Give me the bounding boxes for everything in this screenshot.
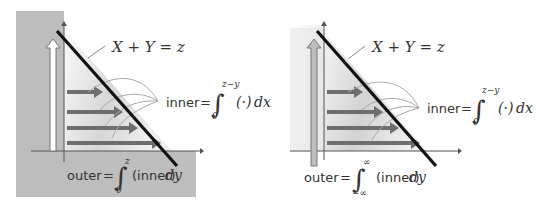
panel-right: X + Y = z inner = ∫ 0 z−y (·) dx outer =… [272,0,543,206]
line-label: X + Y = z [111,38,185,56]
outer-lower-limit: −∞ [352,188,367,198]
outer-eq: = [340,170,351,185]
outer-upper-limit: z [124,156,130,166]
outer-lower-limit: 0 [116,185,122,195]
inner-upper-limit: z−y [481,85,500,95]
outer-upper-limit: ∞ [363,157,371,167]
inner-lhs: inner [427,101,461,116]
line-label-leader [348,46,365,59]
outer-lhs: outer [67,168,102,183]
panel-left: X + Y = z inner = ∫ 0 z−y (·) dx outer =… [0,0,272,206]
inner-lower-limit: 0 [212,111,218,121]
inner-lhs: inner [166,95,200,110]
inner-lower-limit: 0 [473,117,479,127]
inner-differential: dx [254,94,271,110]
line-label-leader [88,46,105,58]
diagram-left: X + Y = z inner = ∫ 0 z−y (·) dx outer =… [0,0,272,206]
outer-formula: outer = ∫ −∞ ∞ (inner) dy [304,157,427,198]
inner-integrand: (·) [498,100,513,116]
inner-upper-limit: z−y [221,79,240,89]
inner-eq: = [461,101,472,116]
inner-formula: inner = ∫ 0 z−y (·) dx [166,79,271,121]
outer-differential: dy [409,169,427,185]
outer-differential: dy [165,167,183,183]
outer-lhs: outer [304,170,339,185]
outer-eq: = [103,168,114,183]
line-label: X + Y = z [371,38,445,56]
inner-integrand: (·) [236,94,251,110]
inner-differential: dx [516,100,533,116]
diagram-right: X + Y = z inner = ∫ 0 z−y (·) dx outer =… [272,0,543,206]
inner-eq: = [200,95,211,110]
inner-formula: inner = ∫ 0 z−y (·) dx [427,85,533,127]
